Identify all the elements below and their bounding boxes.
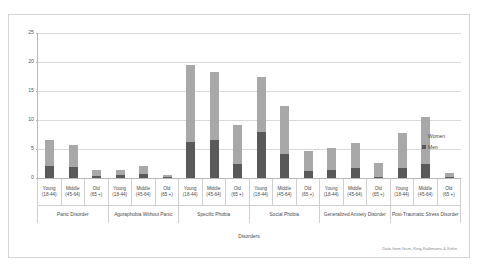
age-label-cell: Old(65 +) [226,179,249,205]
bar-segment-women[interactable] [280,106,289,154]
bar-segment-men[interactable] [92,176,101,178]
bar-segment-men[interactable] [398,168,407,178]
age-label-line2: (45-64) [65,192,80,198]
age-label-line2: (65 +) [161,192,173,198]
bar-segment-men[interactable] [45,166,54,178]
bar-segment-women[interactable] [233,125,242,164]
age-label-cell: Middle(45-64) [132,179,156,205]
bar-segment-men[interactable] [257,132,266,178]
stacked-bar[interactable] [445,173,454,178]
axis-group: Young(18-44)Middle(45-64)Old(65 +)Agorap… [108,179,179,223]
legend-swatch-women [422,134,426,138]
age-label-row: Young(18-44)Middle(45-64)Old(65 +) [38,179,108,205]
bar-segment-men[interactable] [304,171,313,178]
bars-layer [38,33,461,178]
bar-segment-men[interactable] [116,175,125,178]
bar-slot [367,33,390,178]
stacked-bar[interactable] [351,143,360,178]
stacked-bar[interactable] [45,140,54,178]
bar-segment-men[interactable] [163,177,172,178]
bar-segment-men[interactable] [327,170,336,178]
bar-group [320,33,391,178]
stacked-bar[interactable] [163,175,172,178]
age-label-row: Young(18-44)Middle(45-64)Old(65 +) [391,179,461,205]
bar-segment-women[interactable] [374,163,383,177]
axis-group: Young(18-44)Middle(45-64)Old(65 +)Genera… [319,179,390,223]
bar-segment-men[interactable] [445,177,454,178]
age-label-line2: (18-44) [394,192,409,198]
age-label-cell: Old(65 +) [297,179,320,205]
legend-item-men: Men [422,144,460,150]
bar-slot [203,33,226,178]
age-label-cell: Young(18-44) [38,179,62,205]
stacked-bar[interactable] [69,145,78,178]
bar-segment-men[interactable] [69,167,78,178]
axis-group: Young(18-44)Middle(45-64)Old(65 +)Panic … [37,179,108,223]
bar-segment-men[interactable] [186,142,195,178]
age-label-line2: (18-44) [112,192,127,198]
age-label-line2: (18-44) [253,192,268,198]
stacked-bar[interactable] [280,106,289,178]
age-label-cell: Old(65 +) [367,179,390,205]
stacked-bar[interactable] [257,77,266,178]
age-label-line2: (65 +) [231,192,243,198]
stacked-bar[interactable] [233,125,242,178]
y-axis-tick-label: 0 [31,175,34,180]
bar-segment-women[interactable] [398,133,407,168]
bar-group [38,33,109,178]
bar-segment-men[interactable] [210,140,219,178]
bar-segment-women[interactable] [257,77,266,132]
age-label-line2: (45-64) [136,192,151,198]
age-label-row: Young(18-44)Middle(45-64)Old(65 +) [179,179,249,205]
bar-segment-men[interactable] [233,164,242,178]
bar-segment-men[interactable] [421,164,430,178]
stacked-bar[interactable] [398,133,407,178]
stacked-bar[interactable] [210,72,219,178]
age-label-line2: (65 +) [443,192,455,198]
y-axis-tick-label: 5 [31,146,34,151]
disorder-group-label: Social Phobia [250,205,320,223]
chart-frame: 0510152025 Young(18-44)Middle(45-64)Old(… [8,14,470,258]
stacked-bar[interactable] [327,148,336,178]
bar-segment-women[interactable] [69,145,78,167]
bar-segment-women[interactable] [45,140,54,166]
bar-segment-women[interactable] [210,72,219,140]
bar-group [109,33,180,178]
bar-segment-men[interactable] [139,174,148,178]
legend-label-men: Men [428,144,438,150]
disorder-group-label: Specific Phobia [179,205,249,223]
age-label-cell: Young(18-44) [179,179,203,205]
age-label-line2: (45-64) [418,192,433,198]
bar-segment-women[interactable] [186,65,195,142]
age-label-cell: Middle(45-64) [414,179,438,205]
stacked-bar[interactable] [186,65,195,178]
bar-segment-men[interactable] [280,154,289,178]
bar-segment-men[interactable] [351,168,360,178]
disorder-group-label: Post-Traumatic Stress Disorder [391,205,461,223]
stacked-bar[interactable] [374,163,383,178]
age-label-line2: (65 +) [372,192,384,198]
disorder-group-label: Generalized Anxiety Disorder [320,205,390,223]
bar-segment-women[interactable] [139,166,148,174]
source-note: Data from Gum, King-Kallimanis & Kohn [382,246,457,251]
legend-swatch-men [422,145,426,149]
bar-segment-men[interactable] [374,177,383,178]
bar-group [250,33,321,178]
bar-segment-women[interactable] [351,143,360,168]
stacked-bar[interactable] [139,166,148,178]
bar-slot [62,33,85,178]
bar-slot [226,33,249,178]
age-label-cell: Old(65 +) [156,179,179,205]
bar-segment-women[interactable] [304,151,313,171]
axis-group: Young(18-44)Middle(45-64)Old(65 +)Social… [249,179,320,223]
bar-slot [438,33,461,178]
age-label-row: Young(18-44)Middle(45-64)Old(65 +) [320,179,390,205]
age-label-cell: Young(18-44) [320,179,344,205]
stacked-bar[interactable] [92,170,101,178]
stacked-bar[interactable] [304,151,313,178]
bar-segment-women[interactable] [327,148,336,171]
bar-group [179,33,250,178]
stacked-bar[interactable] [116,170,125,178]
age-label-row: Young(18-44)Middle(45-64)Old(65 +) [250,179,320,205]
bar-group [391,33,462,178]
